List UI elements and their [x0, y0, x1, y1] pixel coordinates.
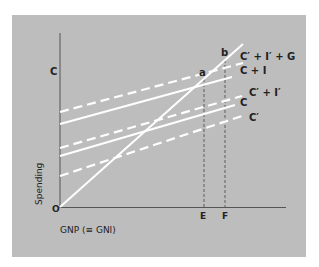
- legend-c-plus-i: C + I: [240, 65, 266, 76]
- point-a-label: a: [199, 67, 206, 78]
- line-c: [60, 105, 235, 156]
- point-b-label: b: [221, 47, 228, 58]
- chart-svg: C O a b E F C′ + I′ + G C + I C′ + I′ C …: [0, 0, 319, 267]
- legend-c-prime-i-prime-g: C′ + I′ + G: [240, 51, 295, 62]
- legend-c-prime: C′: [249, 112, 259, 123]
- line-c-plus-i: [60, 77, 232, 124]
- y-axis-title: Spending: [34, 163, 44, 205]
- legend-c: C: [240, 97, 247, 108]
- y-tick-c-label: C: [50, 66, 57, 77]
- tick-f-label: F: [222, 211, 228, 221]
- legend-c-prime-i-prime: C′ + I′: [249, 87, 281, 98]
- origin-label: O: [52, 204, 60, 214]
- line-45-degree: [60, 44, 243, 207]
- x-axis-title: GNP (≡ GNI): [60, 225, 116, 235]
- tick-e-label: E: [200, 211, 206, 221]
